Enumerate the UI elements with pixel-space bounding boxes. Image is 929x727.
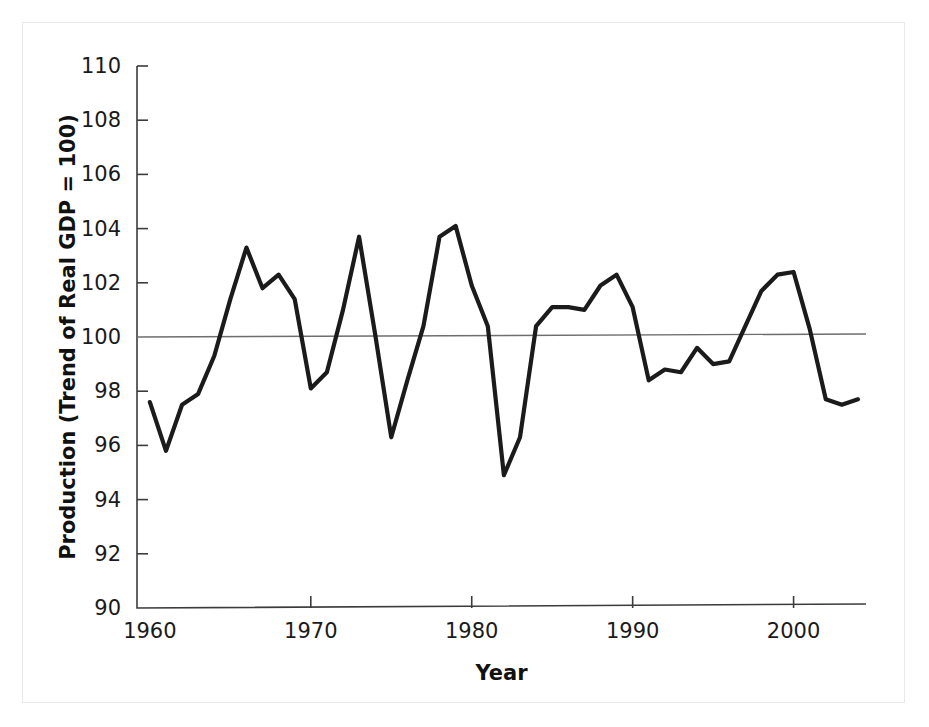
figure-root: 9092949698100102104106108110 19601970198… (0, 0, 929, 727)
y-axis-tick-labels: 9092949698100102104106108110 (81, 54, 121, 620)
x-axis-title: Year (474, 661, 528, 685)
y-tick-label: 100 (81, 325, 121, 349)
x-tick-label: 1980 (445, 619, 498, 643)
y-tick-label: 94 (94, 488, 121, 512)
data-series-line (150, 226, 858, 475)
y-tick-label: 92 (94, 542, 121, 566)
line-chart: 9092949698100102104106108110 19601970198… (0, 0, 929, 727)
y-tick-label: 98 (94, 379, 121, 403)
y-tick-label: 108 (81, 108, 121, 132)
x-tick-label: 1970 (284, 619, 337, 643)
y-axis-tick-marks (137, 66, 148, 554)
y-tick-label: 96 (94, 433, 121, 457)
y-axis-title: Production (Trend of Real GDP = 100) (56, 114, 80, 560)
x-tick-label: 2000 (767, 619, 820, 643)
x-tick-label: 1960 (123, 619, 176, 643)
reference-line-100 (137, 334, 866, 337)
y-tick-label: 110 (81, 54, 121, 78)
y-tick-label: 106 (81, 162, 121, 186)
y-tick-label: 102 (81, 271, 121, 295)
y-tick-label: 104 (81, 217, 121, 241)
y-tick-label: 90 (94, 596, 121, 620)
x-tick-label: 1990 (606, 619, 659, 643)
x-axis-tick-labels: 19601970198019902000 (123, 619, 820, 643)
